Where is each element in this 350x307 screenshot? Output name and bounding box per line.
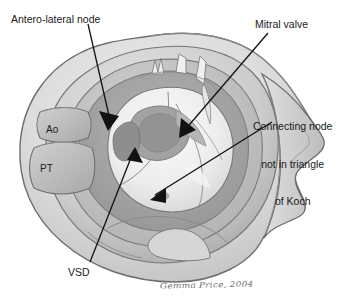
illustration-canvas: Antero-lateral node Mitral valve Connect…: [0, 0, 350, 307]
label-vsd: VSD: [68, 266, 90, 279]
label-connecting-node-line-1: Connecting node: [253, 120, 332, 133]
great-vessels: [30, 108, 95, 195]
label-connecting-node: Connecting node not in triangle of Koch: [253, 95, 332, 233]
label-connecting-node-line-2: not in triangle: [253, 158, 332, 171]
label-pulmonary-trunk: PT: [40, 163, 53, 174]
label-mitral-valve: Mitral valve: [255, 18, 308, 31]
label-antero-lateral-node: Antero-lateral node: [11, 13, 100, 26]
label-connecting-node-line-3: of Koch: [253, 195, 332, 208]
label-aorta: Ao: [46, 124, 58, 135]
